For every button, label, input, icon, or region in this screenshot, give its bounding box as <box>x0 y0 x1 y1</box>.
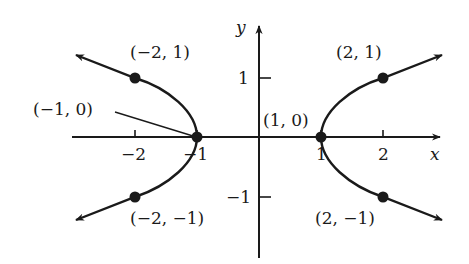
x-tick-label-neg1: −1 <box>183 146 208 163</box>
point-1-0 <box>316 132 327 143</box>
point-label-1-0: (1, 0) <box>263 112 309 129</box>
x-tick-label-neg2: −2 <box>121 146 146 163</box>
point-label-neg2-neg1: (−2, −1) <box>130 210 204 227</box>
y-tick-label-neg1: −1 <box>226 189 251 206</box>
point-neg2-neg1 <box>130 192 141 203</box>
vertex-label-leader <box>115 112 193 136</box>
right-branch-upper <box>321 55 442 137</box>
point-label-neg1-0: (−1, 0) <box>33 101 93 118</box>
x-axis-label: x <box>430 146 440 163</box>
point-label-neg2-1: (−2, 1) <box>130 44 190 61</box>
point-neg1-0 <box>192 132 203 143</box>
point-label-2-1: (2, 1) <box>336 44 382 61</box>
point-neg2-1 <box>130 73 141 84</box>
graph-canvas <box>0 0 469 264</box>
point-label-2-neg1: (2, −1) <box>315 210 375 227</box>
y-axis-label: y <box>236 19 246 36</box>
x-tick-label-2: 2 <box>378 146 389 163</box>
x-tick-label-1: 1 <box>316 146 327 163</box>
point-2-neg1 <box>378 192 389 203</box>
left-branch-upper <box>76 55 197 137</box>
point-2-1 <box>378 73 389 84</box>
y-tick-label-1: 1 <box>238 70 249 87</box>
